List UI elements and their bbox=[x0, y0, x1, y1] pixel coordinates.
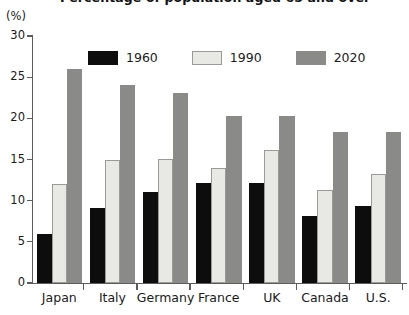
bar-Italy-2020 bbox=[120, 85, 135, 283]
bar-Italy-1990 bbox=[105, 160, 120, 284]
x-tick-1 bbox=[136, 284, 137, 290]
bar-US-1960 bbox=[355, 206, 370, 283]
bar-Japan-2020 bbox=[67, 69, 82, 283]
bar-Germany-2020 bbox=[173, 93, 188, 283]
bar-UK-2020 bbox=[279, 116, 294, 283]
bar-Canada-1960 bbox=[302, 216, 317, 284]
bar-Italy-1960 bbox=[90, 208, 105, 283]
y-tick-label-0: 0 bbox=[1, 277, 25, 289]
x-axis-line bbox=[32, 283, 407, 284]
x-axis-label-US: U.S. bbox=[333, 291, 409, 305]
bar-Canada-1990 bbox=[317, 190, 332, 283]
y-tick-label-wrap-10: 10 bbox=[0, 195, 25, 207]
bar-chart-figure: Percentage of population aged 65 and ove… bbox=[0, 0, 409, 315]
x-tick-5 bbox=[349, 284, 350, 290]
bar-France-1990 bbox=[211, 168, 226, 283]
bar-Canada-2020 bbox=[333, 132, 348, 283]
y-axis-unit-label: (%) bbox=[6, 10, 26, 23]
x-tick-2 bbox=[189, 284, 190, 290]
bar-France-1960 bbox=[196, 183, 211, 283]
y-tick-label-wrap-20: 20 bbox=[0, 112, 25, 124]
y-tick-label-30: 30 bbox=[1, 30, 25, 42]
plot-area bbox=[33, 36, 405, 283]
x-tick-3 bbox=[243, 284, 244, 290]
bar-UK-1960 bbox=[249, 183, 264, 283]
y-tick-label-wrap-25: 25 bbox=[0, 71, 25, 83]
y-tick-label-25: 25 bbox=[1, 71, 25, 83]
y-tick-label-wrap-0: 0 bbox=[0, 277, 25, 289]
y-tick-label-10: 10 bbox=[1, 195, 25, 207]
chart-title-clipped: Percentage of population aged 65 and ove… bbox=[0, 0, 409, 10]
bar-Germany-1990 bbox=[158, 159, 173, 283]
y-tick-label-5: 5 bbox=[1, 236, 25, 248]
chart-title-text: Percentage of population aged 65 and ove… bbox=[60, 0, 370, 5]
bar-France-2020 bbox=[226, 116, 241, 283]
y-tick-label-15: 15 bbox=[1, 154, 25, 166]
y-tick-label-20: 20 bbox=[1, 112, 25, 124]
bar-Japan-1990 bbox=[52, 184, 67, 283]
bar-UK-1990 bbox=[264, 150, 279, 283]
bar-Germany-1960 bbox=[143, 192, 158, 283]
y-tick-label-wrap-15: 15 bbox=[0, 154, 25, 166]
y-tick-label-wrap-30: 30 bbox=[0, 30, 25, 42]
x-tick-6 bbox=[402, 284, 403, 290]
bar-Japan-1960 bbox=[37, 234, 52, 283]
bar-US-1990 bbox=[371, 174, 386, 284]
x-tick-4 bbox=[296, 284, 297, 290]
y-tick-label-wrap-5: 5 bbox=[0, 236, 25, 248]
bar-US-2020 bbox=[386, 132, 401, 283]
x-tick-0 bbox=[83, 284, 84, 290]
